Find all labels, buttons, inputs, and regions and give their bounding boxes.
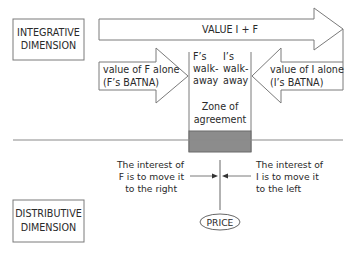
- i-interest-text: The interest of I is to move it to the l…: [255, 159, 324, 194]
- i-batna-line2: (I’s BATNA): [270, 77, 323, 88]
- svg-text:I is to move it: I is to move it: [256, 171, 319, 182]
- value-total-arrow: VALUE I + F: [99, 8, 343, 50]
- distributive-dimension-box: DISTRIBUTIVE DIMENSION: [13, 200, 84, 242]
- svg-text:F is to move it: F is to move it: [119, 171, 185, 182]
- zone-line1: Zone of: [202, 101, 239, 112]
- integrative-label-line2: DIMENSION: [21, 40, 76, 51]
- value-total-label: VALUE I + F: [202, 24, 258, 35]
- svg-text:away: away: [193, 75, 219, 86]
- i-walkaway-label: I’s walk- away: [223, 51, 249, 86]
- svg-text:walk-: walk-: [223, 63, 248, 74]
- integrative-label-line1: INTEGRATIVE: [17, 27, 80, 38]
- svg-text:The interest of: The interest of: [255, 159, 324, 170]
- i-interest-arrow: [222, 174, 251, 179]
- svg-text:The interest of: The interest of: [116, 159, 185, 170]
- f-walkaway-label: F’s walk- away: [193, 51, 219, 86]
- svg-text:walk-: walk-: [193, 63, 218, 74]
- svg-text:away: away: [223, 75, 249, 86]
- f-batna-line2: (F’s BATNA): [103, 77, 159, 88]
- f-interest-text: The interest of F is to move it to the r…: [116, 159, 185, 194]
- price-ellipse: PRICE: [200, 214, 240, 230]
- f-interest-arrow: [190, 174, 218, 179]
- price-label: PRICE: [207, 217, 234, 228]
- negotiation-diagram: INTEGRATIVE DIMENSION VALUE I + F value …: [0, 0, 353, 254]
- zone-bar: [189, 131, 251, 152]
- svg-text:to the left: to the left: [256, 183, 301, 194]
- f-batna-arrow: value of F alone (F’s BATNA): [99, 48, 188, 103]
- zone-of-agreement: Zone of agreement: [189, 101, 251, 152]
- distributive-label-line2: DIMENSION: [21, 222, 76, 233]
- zone-line2: agreement: [194, 114, 247, 125]
- svg-text:to the right: to the right: [125, 183, 177, 194]
- svg-text:F’s: F’s: [193, 51, 207, 62]
- f-batna-line1: value of F alone: [103, 64, 180, 75]
- integrative-dimension-box: INTEGRATIVE DIMENSION: [13, 19, 84, 60]
- svg-text:I’s: I’s: [223, 51, 234, 62]
- distributive-label-line1: DISTRIBUTIVE: [15, 208, 82, 219]
- i-batna-line1: value of I alone: [270, 64, 344, 75]
